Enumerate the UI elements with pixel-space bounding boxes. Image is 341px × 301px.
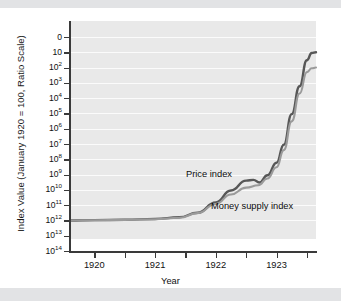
x-tick (307, 252, 308, 258)
y-tick (64, 83, 71, 84)
y-tick-label: 1011 (46, 201, 62, 210)
y-tick-label: 105 (49, 109, 62, 118)
x-tick-label: 1923 (266, 260, 287, 270)
y-tick-label: 108 (49, 155, 62, 164)
y-tick-label: 0 (57, 33, 62, 42)
x-axis-title: Year (0, 276, 341, 286)
x-tick (94, 252, 95, 258)
top-banner-band (0, 0, 341, 8)
money-supply-index-label: Money supply index (211, 201, 293, 211)
x-tick (277, 252, 278, 258)
price-index-line (70, 52, 316, 220)
y-tick (64, 205, 71, 206)
x-tick-label: 1920 (84, 260, 105, 270)
y-tick-label: 1010 (46, 185, 62, 194)
y-axis-title: Index Value (January 1920 = 100, Ratio S… (15, 19, 26, 249)
x-tick-label: 1921 (145, 260, 166, 270)
chart-figure: Index Value (January 1920 = 100, Ratio S… (0, 8, 341, 288)
y-tick-label: 1013 (46, 231, 62, 240)
y-tick (64, 113, 71, 114)
bottom-banner-band (0, 288, 341, 301)
x-tick (246, 252, 247, 258)
y-tick-label: 103 (49, 78, 62, 87)
x-tick (125, 252, 126, 258)
y-tick (64, 220, 71, 221)
y-tick-label: 102 (49, 63, 62, 72)
y-axis-line (69, 21, 71, 253)
price-index-label: Price index (186, 169, 232, 179)
y-tick-label: 104 (49, 94, 62, 103)
x-axis-line (69, 251, 317, 253)
y-tick (64, 236, 71, 237)
x-tick (216, 252, 217, 258)
y-tick-label: 1014 (46, 247, 62, 256)
y-tick (64, 190, 71, 191)
y-tick (64, 37, 71, 38)
y-tick (64, 52, 71, 53)
y-tick-label: 106 (49, 124, 62, 133)
y-tick-label: 1012 (46, 216, 62, 225)
x-tick (185, 252, 186, 258)
x-tick (155, 252, 156, 258)
y-tick (64, 159, 71, 160)
y-tick (64, 251, 71, 252)
y-tick-label: 109 (49, 170, 62, 179)
y-tick (64, 144, 71, 145)
y-tick (64, 175, 71, 176)
y-tick (64, 129, 71, 130)
x-tick-label: 1922 (205, 260, 226, 270)
y-tick (64, 98, 71, 99)
money-supply-index-line (70, 68, 316, 221)
y-tick-label: 107 (49, 140, 62, 149)
y-tick-label: 10 (52, 48, 62, 57)
y-tick (64, 68, 71, 69)
